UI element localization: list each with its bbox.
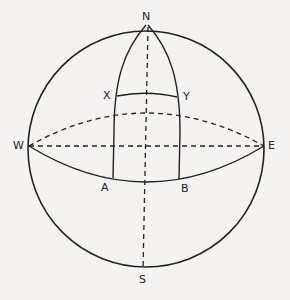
label-x: X <box>103 90 111 101</box>
sphere-drawing <box>0 0 290 300</box>
sphere-diagram: N S W E X Y A B <box>0 0 290 300</box>
equator-front-arc <box>29 146 264 182</box>
label-east: E <box>268 140 275 151</box>
north-south-axis <box>143 27 148 270</box>
label-south: S <box>139 274 146 285</box>
parallel-xy-arc <box>117 93 177 97</box>
sphere-outline <box>28 31 264 267</box>
label-a: A <box>101 182 109 193</box>
label-north: N <box>142 11 150 22</box>
meridian-right <box>148 25 180 179</box>
label-y: Y <box>183 91 190 102</box>
label-west: W <box>13 140 24 151</box>
label-b: B <box>181 183 189 194</box>
meridian-left <box>113 25 146 178</box>
